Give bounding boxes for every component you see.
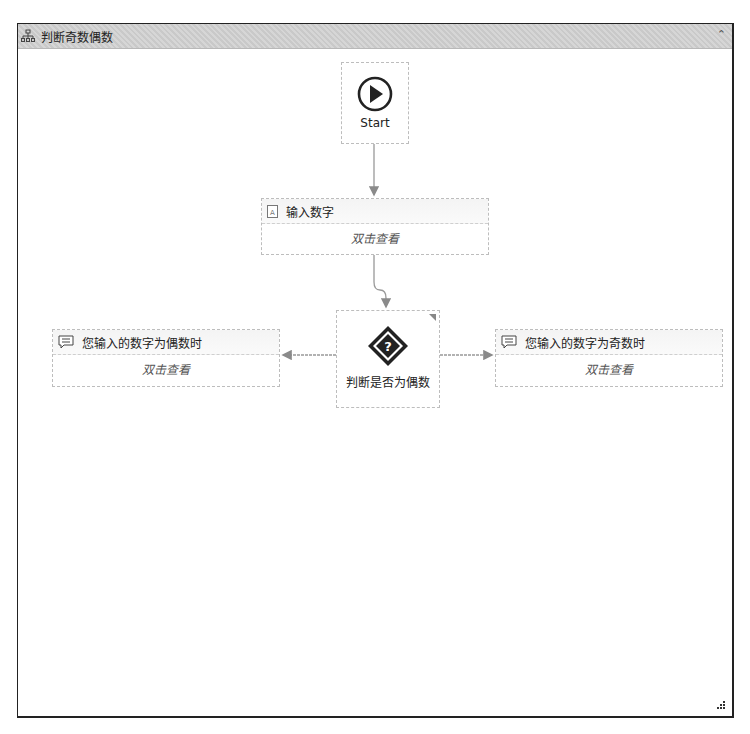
question-diamond-icon: ? — [367, 325, 409, 367]
activity-body-hint: 双击查看 — [53, 355, 279, 385]
activity-body-hint: 双击查看 — [262, 224, 488, 254]
activity-header: 您输入的数字为偶数时 — [53, 330, 279, 355]
activity-odd-message[interactable]: 您输入的数字为奇数时 双击查看 — [495, 329, 723, 387]
message-icon — [501, 335, 517, 349]
activity-title: 您输入的数字为奇数时 — [525, 334, 645, 351]
activity-input-number[interactable]: A 输入数字 双击查看 — [261, 198, 489, 255]
workflow-titlebar: 判断奇数偶数 ⌃ — [18, 24, 732, 49]
start-label: Start — [360, 116, 389, 130]
decision-label: 判断是否为偶数 — [346, 373, 430, 390]
message-icon — [58, 335, 74, 349]
activity-title: 输入数字 — [286, 203, 334, 220]
start-node[interactable]: Start — [341, 62, 409, 144]
workflow-title: 判断奇数偶数 — [41, 28, 113, 45]
activity-header: 您输入的数字为奇数时 — [496, 330, 722, 355]
resize-grip-icon[interactable] — [716, 700, 726, 710]
corner-marker-icon — [429, 314, 436, 321]
double-chevron-up-icon[interactable]: ⌃ — [717, 28, 726, 42]
play-circle-icon — [357, 76, 393, 112]
svg-text:A: A — [270, 209, 275, 217]
decision-node[interactable]: ? 判断是否为偶数 — [336, 310, 440, 408]
svg-text:?: ? — [384, 339, 392, 354]
flowchart-icon — [21, 29, 35, 43]
activity-body-hint: 双击查看 — [496, 355, 722, 385]
activity-header: A 输入数字 — [262, 199, 488, 224]
workflow-designer: 判断奇数偶数 ⌃ Start A 输入数字 双击查看 — [17, 23, 734, 718]
activity-title: 您输入的数字为偶数时 — [82, 334, 202, 351]
input-dialog-icon: A — [267, 205, 278, 218]
connector-input-decision — [374, 255, 386, 306]
activity-even-message[interactable]: 您输入的数字为偶数时 双击查看 — [52, 329, 280, 387]
